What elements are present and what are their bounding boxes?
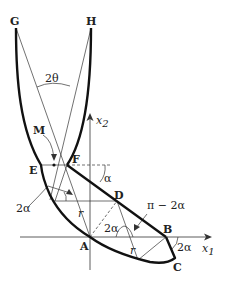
label-two-alpha-left: 2α (16, 202, 31, 215)
two-alpha-left-arc (64, 192, 66, 201)
label-h: H (86, 15, 96, 28)
label-b: B (163, 223, 172, 236)
pi-minus-two-alpha-arc (124, 226, 133, 237)
label-x1: x1 (202, 242, 215, 257)
label-two-alpha-right: 2α (177, 241, 192, 254)
label-r-left: r (78, 207, 84, 220)
label-e: E (29, 164, 37, 177)
label-g: G (10, 15, 19, 28)
label-f: F (72, 153, 80, 166)
label-two-theta: 2θ (45, 72, 59, 85)
point-m-dot (52, 163, 55, 166)
label-a: A (79, 240, 89, 253)
label-m: M (33, 124, 45, 137)
label-c: C (173, 261, 182, 274)
label-pi-minus-two-alpha: π − 2α (147, 199, 185, 212)
label-r-right: r (130, 244, 136, 257)
label-d: D (114, 189, 124, 202)
slip-line-diagram: G H 2θ M E F α 2α D π − 2α 2α r r A B 2α… (0, 0, 226, 284)
label-x2: x2 (96, 114, 109, 129)
label-two-alpha-mid: 2α (104, 222, 119, 235)
label-alpha: α (104, 172, 112, 185)
boundary (16, 28, 175, 263)
